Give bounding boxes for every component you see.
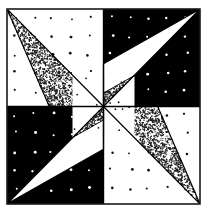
stipple-dot — [45, 62, 46, 63]
stipple-dot — [141, 134, 142, 135]
stipple-dot — [154, 123, 155, 124]
grid-dot — [146, 187, 148, 189]
stipple-dot — [91, 122, 92, 123]
stipple-dot — [39, 45, 40, 46]
stipple-dot — [160, 140, 161, 141]
grid-dot — [14, 89, 16, 91]
stipple-dot — [142, 142, 143, 143]
stipple-dot — [172, 151, 173, 152]
stipple-dot — [165, 162, 167, 164]
stipple-dot — [176, 155, 177, 156]
stipple-dot — [64, 90, 65, 91]
stipple-dot — [155, 115, 157, 117]
stipple-dot — [161, 150, 162, 151]
stipple-dot — [42, 82, 43, 83]
stipple-dot — [152, 152, 154, 154]
stipple-dot — [39, 62, 40, 63]
center-grid-dot — [122, 108, 124, 110]
grid-dot — [53, 134, 55, 136]
stipple-dot — [45, 53, 46, 54]
stipple-dot — [157, 121, 158, 122]
stipple-dot — [99, 115, 101, 117]
grid-dot — [129, 188, 131, 190]
stipple-dot — [58, 73, 60, 75]
stipple-dot — [54, 83, 55, 84]
stipple-dot — [163, 155, 164, 156]
stipple-dot — [169, 167, 171, 169]
stipple-dot — [64, 79, 65, 80]
stipple-dot — [71, 81, 72, 82]
stipple-dot — [145, 113, 146, 114]
stipple-dot — [59, 90, 61, 92]
stipple-dot — [142, 129, 143, 130]
stipple-dot — [94, 121, 95, 122]
stipple-dot — [155, 128, 156, 129]
grid-dot — [86, 54, 89, 57]
grid-dot — [112, 34, 115, 37]
stipple-dot — [58, 79, 59, 80]
stipple-dot — [27, 52, 29, 54]
stipple-dot — [121, 85, 122, 86]
stipple-dot — [94, 118, 95, 119]
stipple-dot — [36, 56, 37, 57]
stipple-dot — [100, 113, 101, 114]
stipple-dot — [101, 116, 102, 117]
stipple-dot — [182, 176, 183, 177]
stipple-dot — [151, 125, 152, 126]
grid-dot — [35, 92, 37, 94]
stipple-dot — [53, 98, 54, 99]
stipple-dot — [109, 98, 110, 99]
stipple-dot — [52, 73, 53, 74]
stipple-dot — [158, 125, 159, 126]
stipple-dot — [154, 146, 156, 148]
stipple-dot — [148, 126, 149, 127]
stipple-dot — [44, 80, 46, 82]
stipple-dot — [172, 159, 173, 160]
stipple-dot — [55, 80, 56, 81]
stipple-dot — [139, 133, 140, 134]
stipple-dot — [39, 75, 41, 77]
stipple-dot — [65, 99, 66, 100]
stipple-dot — [59, 93, 61, 95]
stipple-dot — [99, 114, 100, 115]
stipple-dot — [139, 139, 141, 141]
stipple-dot — [58, 87, 59, 88]
stipple-dot — [54, 71, 55, 72]
stipple-dot — [171, 149, 172, 150]
stipple-dot — [25, 31, 27, 33]
stipple-dot — [53, 86, 54, 87]
stipple-dot — [150, 127, 152, 129]
stipple-dot — [57, 68, 58, 69]
stipple-dot — [173, 162, 174, 163]
grid-dot — [70, 188, 73, 191]
stipple-dot — [150, 112, 151, 113]
stipple-dot — [147, 128, 149, 130]
stipple-dot — [64, 92, 65, 93]
stipple-dot — [146, 138, 148, 140]
stipple-dot — [179, 163, 180, 164]
stipple-dot — [175, 168, 176, 169]
stipple-dot — [21, 26, 23, 28]
stipple-dot — [24, 43, 25, 44]
stipple-dot — [44, 91, 45, 92]
stipple-dot — [17, 21, 19, 23]
stipple-dot — [168, 138, 170, 140]
stipple-dot — [44, 56, 45, 57]
stipple-dot — [136, 116, 138, 118]
stipple-dot — [68, 85, 69, 86]
stipple-dot — [43, 49, 44, 50]
stipple-dot — [168, 165, 170, 167]
stipple-dot — [51, 93, 52, 94]
stipple-dot — [167, 147, 168, 148]
stipple-dot — [172, 168, 173, 169]
stipple-dot — [155, 139, 156, 140]
stipple-dot — [59, 75, 61, 77]
grid-dot — [50, 17, 52, 19]
stipple-dot — [36, 52, 37, 53]
center-grid-dot — [74, 128, 76, 130]
stipple-dot — [41, 48, 42, 49]
stipple-dot — [32, 54, 33, 55]
stipple-dot — [42, 60, 44, 62]
stipple-dot — [181, 179, 183, 181]
stipple-dot — [148, 146, 149, 147]
